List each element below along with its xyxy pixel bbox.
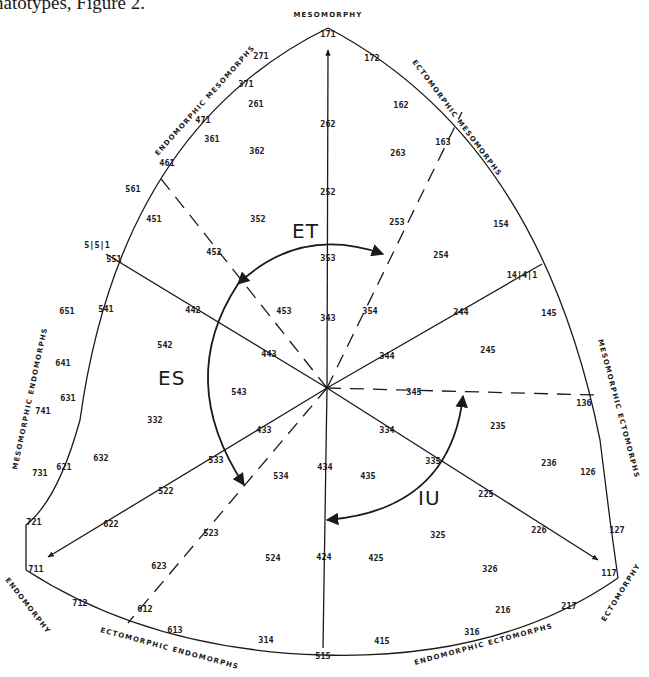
- somatotype-code: 623: [151, 561, 166, 571]
- dashed-to-136: [327, 388, 595, 395]
- somatotype-code: 225: [478, 489, 493, 499]
- curved-arrows: [208, 244, 463, 520]
- somatotype-code: 524: [265, 553, 280, 563]
- somatotype-code: 515: [315, 651, 330, 661]
- somatotype-code: 631: [60, 393, 75, 403]
- somatotype-code: 424: [316, 552, 331, 562]
- somatotype-code: 14|4|1: [507, 270, 538, 280]
- pole-mesomorphy: MESOMORPHY: [293, 11, 362, 19]
- somatotype-code: 236: [541, 458, 556, 468]
- somatotype-code: 353: [320, 253, 335, 263]
- somatotype-code: 371: [238, 79, 253, 89]
- somatotype-code: 443: [261, 349, 276, 359]
- somatotype-code: 523: [203, 528, 218, 538]
- dashed-to-461: [158, 175, 327, 388]
- somatotype-code: 711: [28, 564, 43, 574]
- somatotype-code: 254: [433, 250, 448, 260]
- somatotype-code: 551: [106, 254, 121, 264]
- somatotype-code: 561: [125, 184, 140, 194]
- somatotype-code: 434: [317, 462, 332, 472]
- somatotype-code: 325: [430, 530, 445, 540]
- somatotype-code: 442: [185, 305, 200, 315]
- axis-to-515: [323, 388, 327, 648]
- somatotype-code: 741: [35, 406, 50, 416]
- somatotype-code: 145: [541, 308, 556, 318]
- et-label: ET: [292, 219, 319, 243]
- somatotype-code: 154: [493, 219, 508, 229]
- et-arrow: [238, 244, 383, 284]
- somatotype-code: 163: [435, 137, 450, 147]
- somatotype-code: 533: [208, 455, 223, 465]
- somatotype-code: 415: [374, 636, 389, 646]
- iu-label: IU: [418, 486, 441, 510]
- somatotype-code: 263: [390, 148, 405, 158]
- somatotype-code: 721: [26, 517, 41, 527]
- somatotype-code: 316: [464, 627, 479, 637]
- pole-endomorphy: ENDOMORPHY: [3, 576, 52, 635]
- somatotype-code: 471: [195, 115, 210, 125]
- somatotype-code: 271: [253, 51, 268, 61]
- somatotype-code: 354: [362, 306, 377, 316]
- somatotype-code: 326: [482, 564, 497, 574]
- somatotype-code: 171: [320, 29, 335, 39]
- somatotype-code: 712: [72, 598, 87, 608]
- somatotype-code: 632: [93, 453, 108, 463]
- somatotype-code: 235: [490, 421, 505, 431]
- axis-to-551: [106, 254, 327, 388]
- mesomorphy-axis: [327, 50, 328, 388]
- somatotype-code: 641: [55, 358, 70, 368]
- somatotype-code: 731: [32, 468, 47, 478]
- region-endomorphic-ectomorphs: ENDOMORPHIC ECTOMORPHS: [413, 622, 553, 667]
- somatotype-code: 453: [276, 306, 291, 316]
- somatotype-code: 117: [601, 568, 616, 578]
- somatotype-code: 613: [167, 625, 182, 635]
- somatotype-code: 452: [206, 247, 221, 257]
- somatotype-code: 261: [248, 99, 263, 109]
- somatotype-code: 451: [146, 214, 161, 224]
- somatotype-code: 433: [256, 425, 271, 435]
- somatotype-code: 621: [56, 462, 71, 472]
- iu-arrow: [327, 396, 463, 520]
- somatotype-code: 343: [320, 313, 335, 323]
- somatotype-code: 522: [158, 486, 173, 496]
- somatotype-code: 5|5|1: [84, 240, 110, 250]
- somatotype-code: 217: [561, 601, 576, 611]
- somatotype-code: 352: [250, 214, 265, 224]
- somatotype-code: 541: [98, 304, 113, 314]
- somatotype-code: 226: [531, 525, 546, 535]
- somatotype-code: 651: [59, 306, 74, 316]
- somatotype-code: 612: [137, 604, 152, 614]
- somatotype-code: 345: [406, 387, 421, 397]
- somatotype-codes: 1712711723712611624713613622622631634615…: [26, 29, 624, 661]
- somatotype-code: 344: [379, 351, 394, 361]
- somatotype-code: 332: [147, 415, 162, 425]
- axis-to-141: [327, 264, 542, 388]
- somatotype-code: 252: [320, 187, 335, 197]
- somatotype-code: 136: [576, 398, 591, 408]
- somatotype-code: 334: [379, 425, 394, 435]
- somatotype-code: 542: [157, 340, 172, 350]
- somatotype-code: 362: [249, 146, 264, 156]
- somatotype-code: 127: [609, 525, 624, 535]
- somatotype-code: 335: [425, 456, 440, 466]
- somatotype-code: 622: [103, 519, 118, 529]
- somatotype-code: 126: [580, 467, 595, 477]
- region-ectomorphic-mesomorphs: ECTOMORPHIC MESOMORPHS: [410, 58, 503, 178]
- somatotype-code: 244: [453, 307, 468, 317]
- somatotype-code: 543: [231, 387, 246, 397]
- somatotype-code: 245: [480, 345, 495, 355]
- es-label: ES: [158, 366, 185, 390]
- somatotype-code: 314: [258, 635, 273, 645]
- somatotype-code: 262: [320, 119, 335, 129]
- somatotype-code: 534: [273, 471, 288, 481]
- somatotype-code: 425: [368, 553, 383, 563]
- somatotype-code: 435: [360, 471, 375, 481]
- somatotype-code: 253: [389, 217, 404, 227]
- region-mesomorphic-endomorphs: MESOMORPHIC ENDOMORPHS: [11, 327, 49, 471]
- somatotype-code: 361: [204, 134, 219, 144]
- somatotype-code: 461: [159, 158, 174, 168]
- somatotype-code: 162: [393, 100, 408, 110]
- somatotype-code: 172: [364, 53, 379, 63]
- somatotype-code: 216: [495, 605, 510, 615]
- somatochart-diagram: ET ES IU MESOMORPHY ENDOMORPHY ECTOMORPH…: [0, 0, 649, 677]
